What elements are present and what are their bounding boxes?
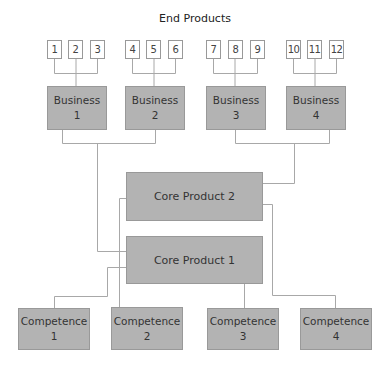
competence-box-1: Competence 1	[18, 308, 90, 350]
end-product-box: 10	[286, 40, 301, 59]
end-product-box: 12	[329, 40, 344, 59]
end-product-box: 1	[47, 40, 62, 59]
core-product-2-box: Core Product 2	[126, 172, 263, 221]
end-product-box: 5	[146, 40, 161, 59]
business-box-2: Business 2	[125, 86, 185, 130]
competence-box-4: Competence 4	[300, 308, 372, 350]
end-product-box: 6	[168, 40, 183, 59]
end-product-box: 7	[206, 40, 221, 59]
end-product-box: 4	[125, 40, 140, 59]
end-product-box: 2	[68, 40, 83, 59]
diagram-title: End Products	[0, 12, 390, 25]
business-box-4: Business 4	[286, 86, 346, 130]
end-product-box: 8	[228, 40, 243, 59]
business-box-1: Business 1	[47, 86, 107, 130]
business-box-3: Business 3	[206, 86, 266, 130]
end-product-box: 11	[307, 40, 322, 59]
core-product-1-box: Core Product 1	[126, 236, 263, 284]
end-product-box: 3	[90, 40, 105, 59]
competence-box-2: Competence 2	[111, 307, 183, 350]
end-product-box: 9	[250, 40, 265, 59]
competence-box-3: Competence 3	[207, 308, 279, 350]
